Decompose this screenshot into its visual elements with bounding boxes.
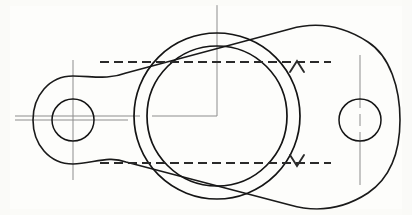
- lower-section-arrow-down-icon: [290, 155, 304, 166]
- technical-drawing-canvas: Flange Gasket Plate — Plan View: [0, 0, 412, 215]
- flange-drawing-svg: [0, 0, 412, 215]
- centerline-group: [15, 5, 360, 185]
